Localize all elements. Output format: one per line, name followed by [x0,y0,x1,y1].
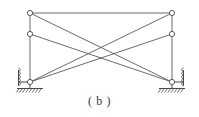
bottom-right-node [169,79,174,84]
mid-right-node [169,31,174,36]
mid-left-node [27,31,32,36]
figure-container: ( b ) [0,0,199,117]
right-support-hatching [158,89,183,93]
top-left-node [27,10,32,15]
bottom-left-node [27,79,32,84]
top-right-node [169,10,174,15]
members-layer [30,13,172,82]
supports-layer [16,68,185,93]
figure-caption: ( b ) [0,94,199,108]
left-support-hatching [16,89,41,93]
